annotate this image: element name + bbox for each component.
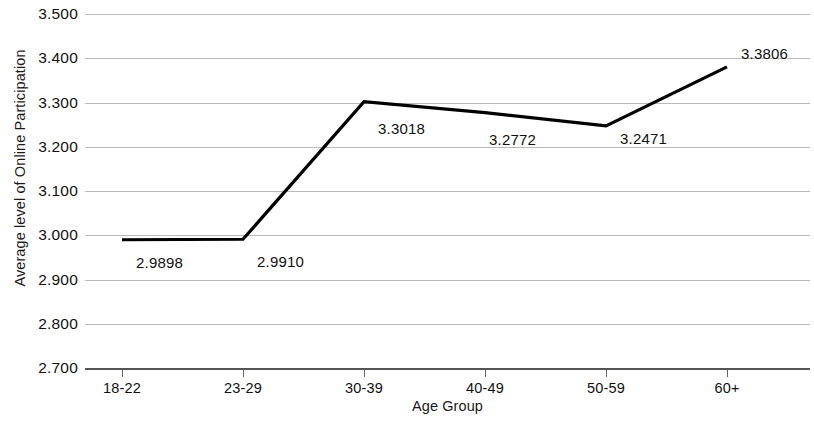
data-point-label: 3.2772 — [489, 131, 536, 148]
plot-area: 18-2223-2930-3940-4950-5960+ 2.98982.991… — [85, 0, 810, 424]
y-axis-tick-label: 3.300 — [20, 94, 78, 112]
y-axis-tick-label: 3.200 — [20, 138, 78, 156]
x-axis-title: Age Group — [85, 398, 810, 414]
y-axis-tick-label: 2.800 — [20, 315, 78, 333]
y-axis-tick-label: 2.900 — [20, 271, 78, 289]
y-axis-tick-label: 2.700 — [20, 359, 78, 377]
data-series — [85, 0, 810, 424]
y-axis-tick-labels: 3.5003.4003.3003.2003.1003.0002.9002.800… — [20, 0, 78, 424]
line-chart: Average level of Online Participation 3.… — [0, 0, 814, 424]
y-axis-tick-label: 3.500 — [20, 5, 78, 23]
y-axis-tick-label: 3.100 — [20, 182, 78, 200]
data-point-label: 2.9910 — [257, 253, 304, 270]
series-line-online-participation — [122, 67, 727, 240]
data-point-label: 3.3806 — [741, 45, 788, 62]
data-point-label: 2.9898 — [136, 254, 183, 271]
y-axis-tick-label: 3.400 — [20, 49, 78, 67]
data-point-label: 3.3018 — [378, 120, 425, 137]
data-point-label: 3.2471 — [620, 130, 667, 147]
y-axis-tick-label: 3.000 — [20, 226, 78, 244]
